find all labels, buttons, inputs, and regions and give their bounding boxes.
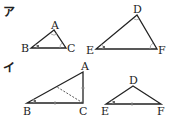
vertex-label-a: A — [50, 19, 60, 32]
triangle-abc-a — [31, 30, 66, 48]
vertex-label-e: E — [86, 44, 94, 57]
vertex-label-b: B — [21, 42, 29, 55]
vertex-label-f2: F — [157, 105, 165, 118]
vertex-label-e2: E — [101, 105, 109, 118]
vertex-label-f: F — [158, 44, 166, 57]
vertex-label-c: C — [67, 42, 75, 55]
triangle-def-a — [96, 15, 157, 49]
section-label-a: ア — [3, 5, 15, 19]
triangle-def-i — [106, 86, 161, 106]
section-label-i: イ — [3, 61, 15, 75]
vertex-label-a2: A — [80, 60, 90, 73]
vertex-label-d: D — [133, 3, 142, 16]
vertex-label-b2: B — [23, 105, 31, 118]
figure-canvas: ア A B C D E F イ A B C D E F — [0, 0, 169, 118]
vertex-label-c2: C — [79, 105, 87, 118]
triangle-abc-i — [27, 72, 85, 105]
vertex-label-d2: D — [129, 74, 138, 87]
